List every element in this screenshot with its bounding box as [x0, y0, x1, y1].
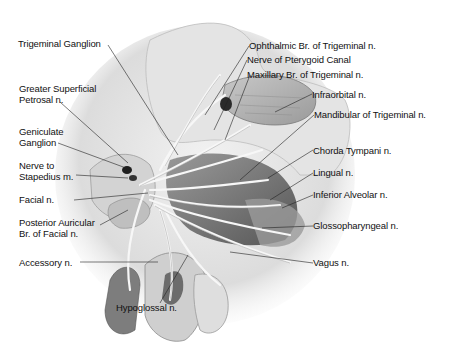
label-hypoglossal: Hypoglossal n. — [116, 302, 177, 313]
anatomy-figure: Trigeminal Ganglion Greater Superficial … — [0, 0, 449, 364]
nerve-illustration — [0, 0, 449, 364]
label-glossopharyngeal: Glossopharyngeal n. — [313, 220, 398, 231]
label-facial-nerve: Facial n. — [19, 194, 54, 205]
label-maxillary-branch: Maxillary Br. of Trigeminal n. — [247, 69, 363, 80]
label-chorda-tympani: Chorda Tympani n. — [313, 145, 391, 156]
label-ophthalmic-branch: Ophthalmic Br. of Trigeminal n. — [249, 40, 376, 51]
label-greater-superficial-petrosal: Greater Superficial Petrosal n. — [19, 83, 96, 105]
label-geniculate-ganglion: Geniculate Ganglion — [19, 126, 63, 148]
label-infraorbital: Infraorbital n. — [312, 89, 366, 100]
label-inferior-alveolar: Inferior Alveolar n. — [313, 189, 388, 200]
label-mandibular: Mandibular of Trigeminal n. — [314, 109, 426, 120]
label-posterior-auricular: Posterior Auricular Br. of Facial n. — [19, 217, 95, 239]
label-nerve-pterygoid-canal: Nerve of Pterygoid Canal — [247, 54, 351, 65]
label-nerve-to-stapedius: Nerve to Stapedius m. — [19, 160, 73, 182]
label-vagus: Vagus n. — [313, 257, 349, 268]
label-accessory-nerve: Accessory n. — [19, 257, 72, 268]
label-lingual: Lingual n. — [313, 167, 353, 178]
label-trigeminal-ganglion: Trigeminal Ganglion — [18, 38, 101, 49]
